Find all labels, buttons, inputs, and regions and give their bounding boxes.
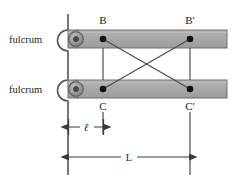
top-fulcrum-pin: [74, 37, 79, 42]
node-c: [100, 86, 107, 93]
dimension-ell-label: ℓ: [84, 122, 89, 133]
label-fulcrum-top: fulcrum: [9, 34, 42, 45]
label-point-b-prime: B′: [185, 14, 195, 26]
node-c-prime: [187, 86, 194, 93]
dimension-L-label: L: [126, 152, 132, 163]
label-point-c-prime: C′: [185, 100, 195, 112]
node-b: [100, 36, 107, 43]
label-point-c: C: [99, 100, 106, 112]
bottom-fulcrum-pin: [74, 87, 79, 92]
node-b-prime: [187, 36, 194, 43]
bottom-lever-bar: [68, 80, 227, 98]
label-point-b: B: [99, 14, 106, 26]
label-fulcrum-bottom: fulcrum: [9, 84, 42, 95]
top-lever-bar: [68, 30, 227, 48]
linkage-diagram-figure: ℓ L fulcrum fulcrum B B′ C C′: [0, 0, 238, 179]
